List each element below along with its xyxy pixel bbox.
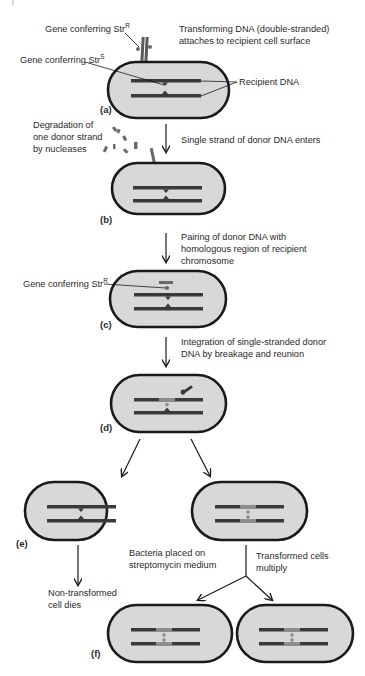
label-pairing-line1: Pairing of donor DNA with <box>181 232 286 242</box>
panel-f: (f) <box>91 605 353 662</box>
label-pairing-line2: homologous region of recipient <box>181 244 307 254</box>
leader-line-strR <box>125 33 139 47</box>
arrow-d-to-e-left <box>122 439 140 476</box>
label-nontransformed-line2: cell dies <box>48 600 82 610</box>
panel-label-a: (a) <box>100 104 112 115</box>
panel-a: Gene conferring StrR Gene conferring Str… <box>20 22 329 118</box>
non-transformed-cell <box>25 482 107 540</box>
label-gene-strR-c: Gene conferring StrR <box>23 277 108 289</box>
label-pairing-line3: chromosome <box>181 256 234 266</box>
label-gene-strR: Gene conferring StrR <box>45 22 130 34</box>
label-integration-line1: Integration of single-stranded donor <box>181 337 326 347</box>
panel-c: Gene conferring StrR Pairing of donor DN… <box>23 232 307 330</box>
label-recipient-dna: Recipient DNA <box>239 77 300 87</box>
arrow-d-to-e-right <box>191 439 210 476</box>
arrow-multiply-left <box>198 576 246 600</box>
panel-d: (d) Integration of single-stranded donor… <box>100 337 326 433</box>
daughter-cell-left <box>108 605 232 662</box>
label-gene-strS: Gene conferring StrS <box>20 53 105 65</box>
recipient-cell-a <box>108 62 229 118</box>
label-transforming-line1: Transforming DNA (double-stranded) <box>179 24 329 34</box>
label-degradation-line1: Degradation of <box>33 120 94 130</box>
transformed-cell <box>192 482 307 540</box>
donor-dna-double-strand <box>136 37 152 62</box>
label-integration-line2: DNA by breakage and reunion <box>181 349 304 359</box>
label-streptomycin-line2: streptomycin medium <box>129 560 217 570</box>
label-degradation-line3: by nucleases <box>33 144 87 154</box>
panel-b: Degradation of one donor strand by nucle… <box>33 120 321 225</box>
label-nontransformed-line1: Non-transformed <box>48 588 117 598</box>
transformation-diagram: Gene conferring StrR Gene conferring Str… <box>0 0 365 676</box>
panel-label-f: (f) <box>91 648 101 659</box>
daughter-cell-right <box>237 605 353 662</box>
label-transforming-line2: attaches to recipient cell surface <box>179 36 310 46</box>
panel-label-e: (e) <box>16 538 28 549</box>
label-single-strand-enters: Single strand of donor DNA enters <box>181 135 321 145</box>
degraded-nucleotide-fragments <box>103 126 138 154</box>
arrow-multiply-right <box>246 576 272 600</box>
panel-label-b: (b) <box>100 214 112 225</box>
panel-label-d: (d) <box>100 422 112 433</box>
label-multiply-line2: multiply <box>256 563 288 573</box>
panel-label-c: (c) <box>100 319 112 330</box>
label-degradation-line2: one donor strand <box>33 132 102 142</box>
label-multiply-line1: Transformed cells <box>256 551 329 561</box>
integrated-donor-segment <box>159 398 175 402</box>
label-streptomycin-line1: Bacteria placed on <box>129 548 205 558</box>
recipient-cell-d <box>111 375 226 432</box>
